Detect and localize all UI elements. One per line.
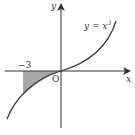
function-label-exponent: 3 bbox=[107, 19, 111, 26]
function-graph: y x O −3 y = x3 bbox=[0, 0, 135, 135]
marked-x-value: −3 bbox=[18, 60, 32, 70]
x-axis-label: x bbox=[126, 74, 131, 84]
y-axis-label: y bbox=[50, 1, 57, 11]
origin-label: O bbox=[52, 74, 59, 84]
function-label: y = x3 bbox=[83, 19, 111, 31]
function-label-base: y = x bbox=[83, 21, 107, 31]
